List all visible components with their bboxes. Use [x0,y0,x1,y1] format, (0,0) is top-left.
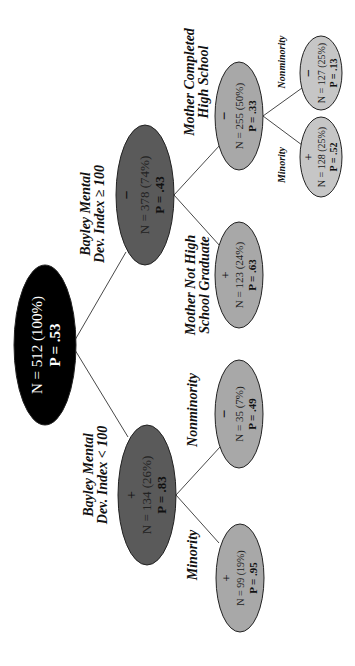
node-hs-minority-count: N = 128 (25%) [316,127,328,187]
node-bmdi-high-probability: P = .43 [152,176,167,214]
label-hs-nonminority: Nonminority [276,35,287,89]
node-mother-hs-sign: − [216,112,232,121]
node-mother-no-hs-count: N = 123 (24%) [233,241,246,308]
label-low-nonminority: Nonminority [185,372,200,448]
node-bmdi-high-sign: − [118,190,135,199]
label-mother-hs-line2: High School [196,46,211,120]
node-bmdi-low-sign: + [124,491,139,499]
node-mother-hs: − N = 255 (50%) P = .33 [215,62,263,170]
edge-root-bmdi-hi [75,252,126,340]
node-low-minority-sign: + [219,574,234,581]
node-low-nonminority-probability: P = .49 [246,398,258,430]
label-hs-minority: Minority [276,146,287,184]
label-mother-no-hs-line2: School Graduate [197,236,212,334]
edge-mom-hs-min [263,116,302,145]
node-low-minority: + N = 99 (19%) P = .95 [216,524,264,632]
node-mother-no-hs-probability: P = .63 [246,259,258,291]
edge-bmdi-lo-nonmin [176,447,220,495]
node-hs-nonminority-probability: P = .13 [328,59,339,88]
node-bmdi-high: − N = 378 (74%) P = .43 [116,125,174,265]
node-bmdi-low-count: N = 134 (26%) [139,456,154,534]
node-bmdi-low: + N = 134 (26%) P = .83 [118,425,176,565]
node-low-nonminority-sign: − [216,410,232,419]
label-bmdi-low-line2: Dev. Index < 100 [95,426,110,525]
edge-root-bmdi-lo [75,350,128,437]
node-bmdi-high-count: N = 378 (74%) [137,156,152,234]
label-low-nonminority-text: Nonminority [185,372,200,448]
label-low-minority-text: Minority [185,529,200,581]
node-hs-nonminority: − N = 127 (25%) P = .13 [300,36,342,110]
node-hs-minority-probability: P = .52 [328,143,339,172]
label-bmdi-low: Bayley Mental Dev. Index < 100 [81,426,110,525]
decision-tree-diagram: N = 512 (100%) P = .53 − N = 378 (74%) P… [0,0,355,666]
node-low-nonminority-count: N = 35 (7%) [233,386,246,442]
node-hs-minority-sign: + [301,153,316,160]
node-mother-no-hs: + N = 123 (24%) P = .63 [215,222,263,328]
label-mother-hs-line1: Mother Completed [182,27,197,137]
node-low-minority-probability: P = .95 [247,562,259,594]
node-mother-hs-count: N = 255 (50%) [233,82,246,149]
edge-mom-hs-nonmin [263,88,302,116]
node-low-minority-count: N = 99 (19%) [235,550,247,605]
label-low-minority: Minority [185,529,200,581]
node-root-probability: P = .53 [47,323,63,366]
node-hs-nonminority-sign: − [301,69,316,77]
label-mother-hs: Mother Completed High School [182,27,211,137]
label-mother-no-hs: Mother Not High School Graduate [183,235,212,337]
node-bmdi-low-probability: P = .83 [154,476,169,514]
node-root: N = 512 (100%) P = .53 [14,265,76,425]
node-root-count: N = 512 (100%) [29,296,46,394]
label-hs-nonminority-text: Nonminority [276,35,287,89]
node-mother-hs-probability: P = .33 [246,100,258,132]
label-bmdi-high-line2: Dev. Index ≥ 100 [92,165,107,264]
label-bmdi-low-line1: Bayley Mental [81,433,96,518]
label-mother-no-hs-line1: Mother Not High [183,235,198,337]
label-bmdi-high-line1: Bayley Mental [78,172,93,257]
node-mother-no-hs-sign: + [218,271,233,278]
node-hs-nonminority-count: N = 127 (25%) [316,43,328,103]
label-bmdi-high: Bayley Mental Dev. Index ≥ 100 [78,165,107,264]
node-hs-minority: + N = 128 (25%) P = .52 [300,117,342,197]
label-hs-minority-text: Minority [276,146,287,184]
edge-bmdi-hi-mom-hs [174,145,220,195]
node-low-nonminority: − N = 35 (7%) P = .49 [215,360,263,468]
node-root-shape [14,265,76,425]
